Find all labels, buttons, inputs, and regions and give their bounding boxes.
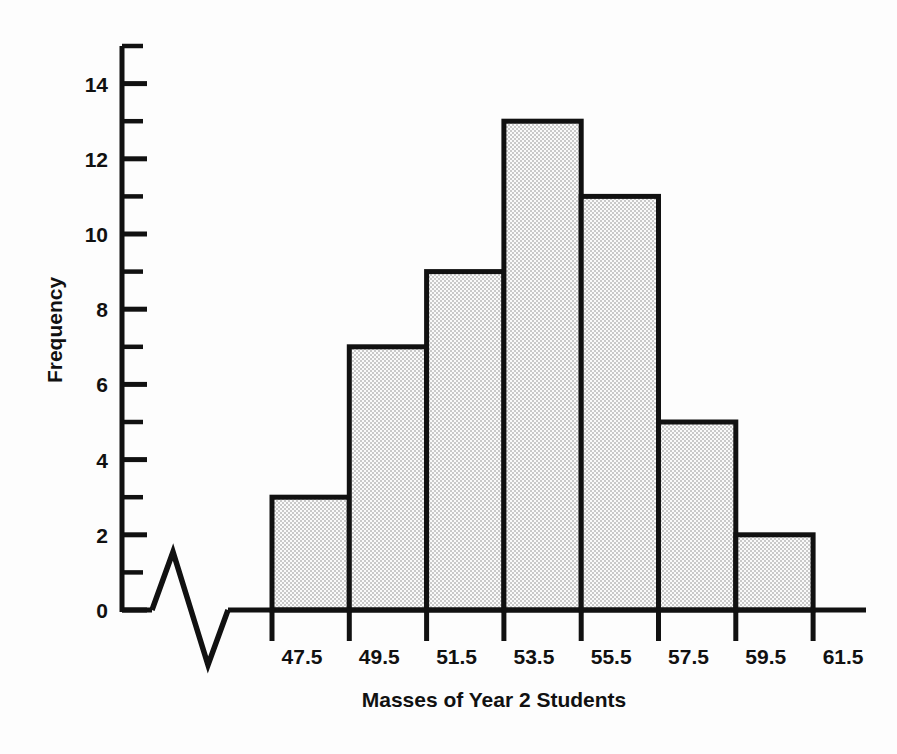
y-axis-tick-label: 6 — [96, 373, 108, 396]
histogram-bar — [272, 497, 349, 610]
x-axis-tick-label: 51.5 — [436, 645, 477, 668]
y-axis-tick-label: 8 — [96, 298, 108, 321]
histogram-plot: 02468101214 47.549.551.553.555.557.559.5… — [0, 0, 897, 754]
x-axis-tick-label: 57.5 — [668, 645, 709, 668]
y-axis-tick-label: 14 — [85, 73, 109, 96]
x-axis-tick-label: 59.5 — [745, 645, 786, 668]
histogram-bar — [427, 272, 504, 610]
histogram-figure: 02468101214 47.549.551.553.555.557.559.5… — [0, 0, 897, 754]
x-axis-tick-label: 61.5 — [823, 645, 864, 668]
y-axis-tick-label: 12 — [85, 148, 108, 171]
x-axis-tick-label: 55.5 — [591, 645, 632, 668]
x-axis-title: Masses of Year 2 Students — [362, 688, 627, 711]
histogram-bar — [736, 535, 813, 610]
histogram-bar — [504, 121, 581, 610]
histogram-bar — [581, 196, 658, 610]
y-axis-tick-label: 2 — [96, 524, 108, 547]
y-axis-title: Frequency — [43, 277, 66, 384]
y-axis-tick-label: 4 — [96, 449, 108, 472]
histogram-bar — [349, 347, 426, 610]
x-axis-tick-label: 47.5 — [282, 645, 323, 668]
x-axis-tick-label: 49.5 — [359, 645, 400, 668]
x-axis-tick-label: 53.5 — [513, 645, 554, 668]
histogram-bar — [659, 422, 736, 610]
y-axis-tick-label: 0 — [96, 599, 108, 622]
y-axis-tick-label: 10 — [85, 223, 108, 246]
